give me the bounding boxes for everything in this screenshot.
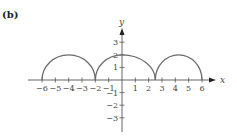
x-tick-label: −2 xyxy=(89,84,101,93)
x-tick-label: 2 xyxy=(146,84,151,93)
curve-piece xyxy=(95,55,155,80)
x-tick-label: −5 xyxy=(49,84,61,93)
x-tick-label: −3 xyxy=(76,84,88,93)
y-tick-label: −1 xyxy=(106,89,118,98)
x-tick-label: 6 xyxy=(199,84,204,93)
x-tick-label: 1 xyxy=(133,84,138,93)
curve-piece xyxy=(155,55,202,80)
x-axis-label: x xyxy=(220,75,225,85)
x-tick-label: −6 xyxy=(36,84,48,93)
y-tick-label: −2 xyxy=(106,101,118,110)
y-tick-label: 1 xyxy=(113,63,118,72)
x-tick-label: 5 xyxy=(186,84,191,93)
function-graph: xy−6−5−4−3−2−1123456321−1−2−3 xyxy=(0,0,237,138)
x-tick-label: −4 xyxy=(63,84,75,93)
x-tick-label: 4 xyxy=(173,84,178,93)
curve-piece xyxy=(42,55,95,80)
y-axis-label: y xyxy=(118,17,125,27)
x-axis-arrow-icon xyxy=(209,78,216,83)
y-tick-label: 3 xyxy=(113,38,118,47)
x-tick-label: 3 xyxy=(159,84,164,93)
y-axis-arrow-icon xyxy=(120,28,125,35)
y-tick-label: −3 xyxy=(106,114,118,123)
